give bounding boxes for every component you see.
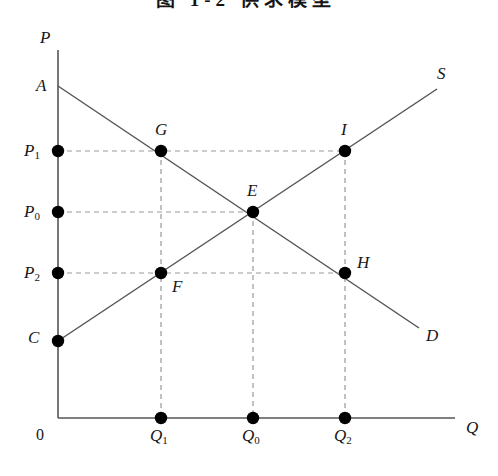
x-tick-q1-sub: 1 [162,434,168,446]
point-label-C: C [28,329,39,346]
point-Q2 [339,412,351,424]
curve-label-D: D [426,327,438,344]
point-P1 [52,145,64,157]
point-E [247,206,259,218]
y-tick-p0: P0 [24,203,40,222]
y-axis-label: P [40,29,50,46]
x-tick-q2-base: Q [334,426,346,445]
point-Q0 [247,412,259,424]
x-tick-q2-sub: 2 [346,434,352,446]
supply-demand-figure: 图 1-2 供求模型 P Q 0 P1 [0,0,498,476]
point-P0 [52,206,64,218]
point-G [155,145,167,157]
point-P2 [52,267,64,279]
point-label-G: G [155,121,167,138]
chart-canvas [0,0,498,476]
y-tick-p0-sub: 0 [34,210,40,222]
point-I [339,145,351,157]
point-label-I: I [341,121,347,138]
x-tick-q2: Q2 [334,427,352,446]
y-tick-p0-base: P [24,202,34,221]
supply-curve [58,89,437,341]
y-tick-p1-sub: 1 [34,149,40,161]
point-H [339,267,351,279]
point-label-E: E [247,182,257,199]
y-tick-p2-sub: 2 [34,271,40,283]
point-label-F: F [172,278,182,295]
y-tick-p2-base: P [24,263,34,282]
demand-curve [58,86,419,328]
y-tick-p1: P1 [24,142,40,161]
x-tick-q0-base: Q [242,426,254,445]
x-tick-q1: Q1 [150,427,168,446]
point-C [52,335,64,347]
y-tick-p1-base: P [24,141,34,160]
x-axis-label: Q [466,419,478,436]
point-label-A: A [36,77,46,94]
curve-label-S: S [437,65,446,82]
point-label-H: H [357,254,369,271]
point-F [155,267,167,279]
x-tick-q0: Q0 [242,427,260,446]
y-tick-p2: P2 [24,264,40,283]
point-Q1 [155,412,167,424]
x-tick-q1-base: Q [150,426,162,445]
origin-label: 0 [36,427,44,443]
x-tick-q0-sub: 0 [254,434,260,446]
